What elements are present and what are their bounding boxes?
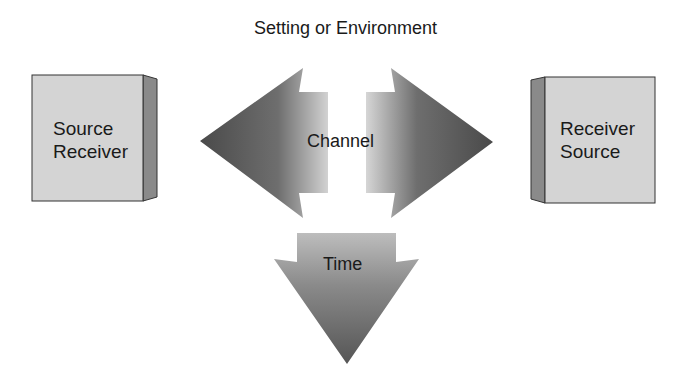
right-box-label: Receiver Source [560,117,635,163]
left-box-line1: Source [53,117,128,140]
right-box-line1: Receiver [560,117,635,140]
channel-arrow-right [366,68,493,218]
left-box-line2: Receiver [53,140,128,163]
diagram-title: Setting or Environment [0,18,691,39]
channel-label: Channel [307,131,374,152]
right-box-line2: Source [560,140,635,163]
diagram-canvas [0,0,691,379]
time-label: Time [323,254,362,275]
time-arrow-down [274,233,419,364]
left-box-label: Source Receiver [53,117,128,163]
